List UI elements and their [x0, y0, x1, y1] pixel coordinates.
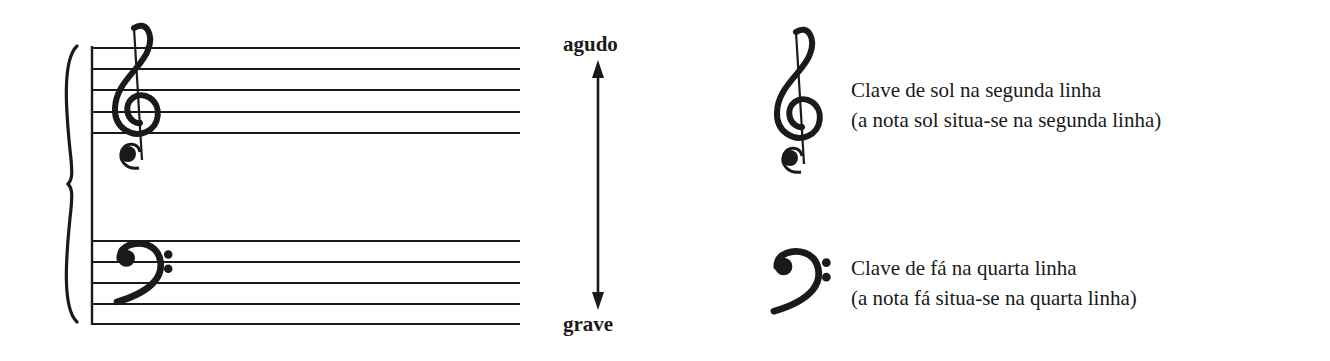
legend-title: Clave de sol na segunda linha — [851, 75, 1161, 105]
legend-bass-clef-icon — [774, 252, 831, 312]
brace — [66, 46, 77, 322]
legend-subtitle: (a nota fá situa-se na quarta linha) — [851, 283, 1137, 313]
legend-title: Clave de fá na quarta linha — [851, 253, 1137, 283]
legend-treble-clef-icon — [777, 30, 820, 173]
arrow-label-low: grave — [563, 312, 613, 337]
clef-diagram: agudo grave Clave de sol na segunda linh… — [0, 0, 1330, 361]
pitch-range-arrow — [592, 60, 604, 310]
arrow-label-high: agudo — [563, 32, 618, 57]
arrow-up-icon — [592, 60, 604, 78]
legend-entry-treble: Clave de sol na segunda linha (a nota so… — [851, 75, 1161, 135]
bass-clef-icon — [117, 244, 173, 302]
arrow-down-icon — [592, 292, 604, 310]
legend-subtitle: (a nota sol situa-se na segunda linha) — [851, 105, 1161, 135]
legend-entry-bass: Clave de fá na quarta linha (a nota fá s… — [851, 253, 1137, 313]
